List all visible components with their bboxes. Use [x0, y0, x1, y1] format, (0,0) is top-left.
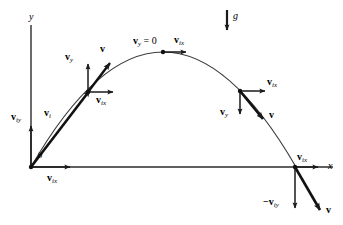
v-y-zero-subscript: y — [138, 40, 141, 48]
v-resultant-landing-label: v — [326, 205, 331, 215]
v-resultant-landing-arrow — [295, 167, 320, 210]
v-ix-ascending-subscript: ix — [101, 99, 106, 107]
neg-v-iy-symbol: −v — [263, 196, 274, 207]
angle-theta-label: θ — [38, 151, 42, 160]
v-resultant-ascending-arrow — [88, 63, 110, 92]
diagram-canvas — [0, 0, 343, 225]
v-y-zero-equals: = 0 — [141, 35, 157, 46]
x-axis-label: x — [328, 161, 332, 171]
v-ix-apex-label: vix — [174, 35, 184, 45]
landing-point-dot — [293, 165, 297, 169]
v-ix-origin-subscript: ix — [52, 177, 57, 185]
v-ix-descending-subscript: ix — [272, 81, 277, 89]
descending-point-dot — [238, 89, 242, 93]
v-ix-descending-label: vix — [267, 77, 277, 87]
launch-point-dot — [29, 165, 33, 169]
v-y-descending-label: vy — [220, 107, 228, 117]
v-ix-apex-subscript: ix — [179, 39, 184, 47]
v-resultant-ascending-label: v — [100, 44, 105, 54]
v-ix-landing-subscript: ix — [302, 156, 307, 164]
y-axis-label: y — [29, 12, 33, 22]
v-y-ascending-subscript: y — [70, 56, 73, 64]
gravity-label: g — [233, 11, 238, 21]
neg-v-iy-landing-label: −viy — [263, 197, 279, 207]
apex-point-dot — [161, 50, 165, 54]
v-y-zero-apex-label: vy = 0 — [133, 36, 157, 46]
v-iy-origin-label: viy — [11, 112, 21, 122]
v-y-descending-subscript: y — [225, 111, 228, 119]
v-resultant-descending-label: v — [269, 110, 274, 120]
v-ix-origin-label: vix — [47, 173, 57, 183]
ascending-point-dot — [86, 90, 90, 94]
projectile-motion-diagram: y x g θ vi viy vix vy v vix vy = 0 vix v… — [0, 0, 343, 225]
v-ix-landing-label: vix — [297, 152, 307, 162]
v-initial-label: vi — [44, 108, 51, 118]
v-y-ascending-label: vy — [65, 52, 73, 62]
v-initial-subscript: i — [49, 112, 51, 120]
neg-v-iy-subscript: iy — [274, 201, 279, 209]
v-ix-ascending-label: vix — [96, 95, 106, 105]
v-resultant-descending-arrow — [240, 91, 263, 119]
v-iy-origin-subscript: iy — [16, 116, 21, 124]
